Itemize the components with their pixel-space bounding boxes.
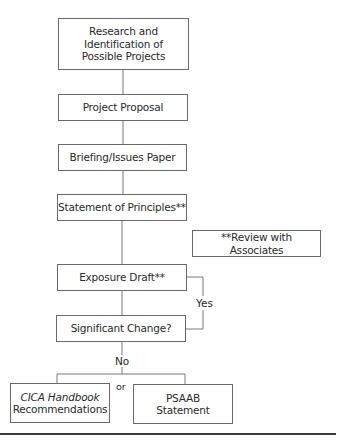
node-psaab-statement: PSAAB Statement <box>133 384 233 424</box>
node-exposure-draft: Exposure Draft** <box>57 264 187 291</box>
node-cica-line2: Recommendations <box>13 403 108 416</box>
node-research-line3: Possible Projects <box>82 50 166 63</box>
node-statement-of-principles: Statement of Principles** <box>57 194 187 221</box>
node-psaab-line1: PSAAB <box>156 392 209 405</box>
review-note: **Review with Associates <box>192 230 321 257</box>
node-psaab-line2: Statement <box>156 404 209 417</box>
node-project-proposal: Project Proposal <box>58 94 188 121</box>
node-research: Research and Identification of Possible … <box>58 18 189 70</box>
edge-label-or: or <box>116 381 126 392</box>
node-briefing-paper: Briefing/Issues Paper <box>58 144 187 171</box>
node-research-line1: Research and <box>82 25 166 38</box>
node-cica-line1: CICA Handbook <box>13 391 108 404</box>
node-significant-change-label: Significant Change? <box>71 322 172 335</box>
node-significant-change: Significant Change? <box>56 315 186 342</box>
edge-label-no: No <box>115 355 129 367</box>
node-briefing-paper-label: Briefing/Issues Paper <box>70 151 176 164</box>
node-project-proposal-label: Project Proposal <box>83 101 164 114</box>
node-cica-handbook: CICA Handbook Recommendations <box>10 383 110 423</box>
node-research-line2: Identification of <box>82 38 166 51</box>
node-statement-of-principles-label: Statement of Principles** <box>58 201 186 214</box>
review-note-label: **Review with Associates <box>193 231 320 256</box>
node-exposure-draft-label: Exposure Draft** <box>79 271 165 284</box>
edge-label-yes: Yes <box>196 297 213 309</box>
